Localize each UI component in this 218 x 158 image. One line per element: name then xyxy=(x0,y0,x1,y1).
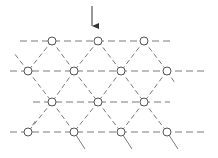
diagonal-line xyxy=(74,102,98,132)
diagonal-line xyxy=(52,102,74,132)
diagonal-line xyxy=(28,71,52,102)
diagonal-line xyxy=(121,71,144,102)
diagonal-line xyxy=(74,41,98,71)
diagonal-dashed-lines xyxy=(14,41,178,149)
diagonal-line xyxy=(52,41,74,71)
diagonal-line xyxy=(98,102,121,132)
diagonal-line xyxy=(121,41,144,71)
lattice-node xyxy=(94,98,102,106)
lattice-node xyxy=(117,67,125,75)
lattice-node xyxy=(24,128,32,136)
lattice-node xyxy=(140,98,148,106)
lattice-diagram xyxy=(0,0,218,158)
lattice-node xyxy=(70,67,78,75)
diagonal-line xyxy=(98,41,121,71)
diagonal-line xyxy=(98,71,121,102)
lattice-node xyxy=(117,128,125,136)
diagonal-line xyxy=(28,102,52,132)
lattice-node xyxy=(163,67,171,75)
diagonal-line xyxy=(28,41,52,71)
diagonal-line xyxy=(144,71,167,102)
lattice-node xyxy=(24,67,32,75)
lattice-node xyxy=(48,37,56,45)
lattice-node xyxy=(163,128,171,136)
lattice-node xyxy=(94,37,102,45)
lattice-node xyxy=(70,128,78,136)
diagonal-line xyxy=(52,71,74,102)
diagonal-line xyxy=(74,71,98,102)
lattice-node xyxy=(48,98,56,106)
diagonal-line xyxy=(144,102,167,132)
lattice-nodes xyxy=(24,37,171,136)
lattice-node xyxy=(140,37,148,45)
diagonal-line xyxy=(144,41,167,71)
diagonal-line xyxy=(121,102,144,132)
